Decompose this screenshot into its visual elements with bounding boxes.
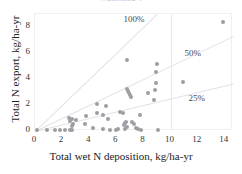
- y-axis-label: Total N export, kg/ha-yr: [9, 16, 21, 123]
- x-tick-2: 2: [51, 134, 71, 144]
- x-tick-8: 8: [132, 134, 152, 144]
- x-tick-12: 12: [187, 134, 207, 144]
- x-tick-4: 4: [78, 134, 98, 144]
- x-axis-ticks: 02468101214: [0, 0, 242, 174]
- x-axis-label: Total wet N deposition, kg/ha-yr: [0, 150, 242, 162]
- scatter-chart-figure: Watershed 4 100%50%25% 02468 02468101214…: [0, 0, 242, 174]
- y-axis-label-wrapper: Total N export, kg/ha-yr: [5, 0, 23, 139]
- x-tick-10: 10: [160, 134, 180, 144]
- x-tick-6: 6: [105, 134, 125, 144]
- x-tick-14: 14: [214, 134, 234, 144]
- x-tick-0: 0: [24, 134, 44, 144]
